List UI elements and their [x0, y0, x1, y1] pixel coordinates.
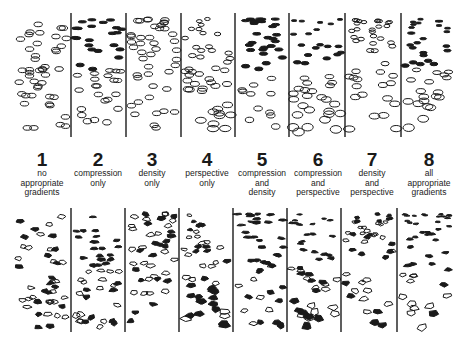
- texture-element: [444, 268, 452, 271]
- texture-element: [46, 223, 53, 227]
- texture-element: [161, 249, 169, 254]
- texture-element: [446, 215, 452, 216]
- texture-element: [76, 291, 83, 295]
- texture-element: [430, 62, 438, 65]
- texture-element: [104, 74, 112, 78]
- texture-element: [61, 115, 69, 120]
- texture-element: [407, 222, 412, 224]
- texture-element: [186, 283, 195, 287]
- texture-element: [292, 220, 298, 221]
- texture-element: [289, 298, 299, 304]
- texture-element: [265, 307, 273, 312]
- texture-element: [136, 41, 144, 46]
- texture-element: [186, 236, 192, 239]
- texture-element: [90, 72, 98, 76]
- texture-element: [251, 277, 257, 281]
- texture-element: [405, 220, 410, 221]
- texture-element: [279, 286, 286, 289]
- texture-element: [146, 264, 156, 268]
- texture-element: [278, 56, 286, 59]
- texture-element: [163, 244, 169, 248]
- texture-element: [76, 63, 84, 67]
- texture-element: [420, 231, 426, 233]
- texture-element: [391, 125, 402, 131]
- texture-element: [256, 295, 264, 299]
- texture-element: [425, 233, 431, 236]
- texture-element: [133, 268, 140, 272]
- texture-element: [303, 81, 312, 86]
- texture-element: [247, 92, 255, 97]
- texture-element: [92, 230, 99, 232]
- texture-element: [61, 296, 68, 299]
- texture-element: [407, 78, 416, 82]
- texture-element: [88, 19, 96, 21]
- texture-element: [195, 72, 204, 77]
- texture-element: [56, 122, 64, 127]
- texture-element: [297, 267, 303, 270]
- texture-element: [258, 320, 264, 325]
- texture-element: [304, 234, 310, 236]
- texture-element: [297, 214, 303, 215]
- texture-element: [245, 117, 253, 122]
- texture-element: [407, 301, 416, 308]
- texture-element: [409, 46, 416, 49]
- texture-element: [73, 230, 80, 232]
- texture-element: [169, 219, 176, 224]
- texture-element: [407, 44, 414, 47]
- texture-element: [112, 92, 120, 97]
- texture-element: [94, 92, 102, 97]
- texture-element: [170, 110, 178, 115]
- condition-number: 5: [230, 150, 294, 169]
- texture-element: [416, 89, 425, 94]
- texture-element: [205, 45, 212, 49]
- texture-element: [197, 55, 205, 59]
- texture-element: [375, 213, 380, 216]
- texture-element: [89, 216, 96, 218]
- texture-element: [161, 289, 169, 294]
- texture-element: [137, 35, 145, 40]
- texture-element: [275, 48, 283, 51]
- texture-element: [142, 212, 149, 217]
- texture-element: [16, 37, 24, 42]
- texture-element: [327, 257, 334, 260]
- texture-element: [90, 247, 98, 250]
- texture-element: [130, 262, 138, 266]
- texture-element: [412, 68, 420, 72]
- texture-element: [142, 217, 151, 221]
- texture-element: [305, 33, 311, 35]
- texture-element: [107, 270, 114, 274]
- texture-element: [302, 93, 312, 98]
- texture-element: [45, 291, 52, 294]
- texture-element: [328, 305, 339, 311]
- texture-element: [110, 44, 118, 47]
- texture-element: [200, 264, 206, 268]
- texture-element: [208, 265, 216, 269]
- texture-element: [128, 225, 135, 228]
- texture-element: [330, 101, 340, 107]
- texture-element: [292, 112, 303, 119]
- texture-element: [328, 23, 334, 25]
- texture-element: [225, 51, 232, 55]
- texture-element: [314, 29, 320, 31]
- texture-element: [389, 73, 398, 78]
- texture-element: [131, 112, 139, 117]
- texture-element: [138, 279, 144, 282]
- texture-element: [41, 73, 49, 78]
- texture-element: [412, 215, 416, 216]
- texture-element: [425, 303, 434, 309]
- texture-element: [278, 219, 287, 221]
- texture-element: [93, 235, 100, 237]
- texture-element: [307, 303, 315, 309]
- texture-element: [23, 305, 32, 308]
- texture-element: [249, 322, 258, 326]
- texture-element: [195, 117, 206, 123]
- texture-element: [262, 61, 270, 65]
- texture-element: [97, 269, 105, 272]
- texture-element: [403, 124, 414, 132]
- texture-element: [134, 100, 142, 105]
- texture-element: [388, 217, 393, 220]
- texture-element: [298, 103, 308, 109]
- texture-element: [187, 214, 192, 217]
- texture-element: [359, 296, 369, 301]
- texture-element: [220, 125, 231, 131]
